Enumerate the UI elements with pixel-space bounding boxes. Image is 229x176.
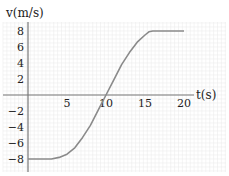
y-tick-label: 2 [17,73,24,86]
grid [3,22,226,172]
y-tick-label: 8 [17,25,24,38]
velocity-time-chart: 5101520 8642−2−4−6−8 v(m/s) t(s) [0,0,229,176]
y-axis-label: v(m/s) [5,6,44,20]
x-tick-label: 5 [64,97,71,110]
x-tick-label: 20 [177,97,191,110]
x-tick-label: 15 [138,97,152,110]
y-tick-label: −8 [8,153,24,166]
x-axis-label: t(s) [196,88,216,102]
y-tick-label: −2 [8,105,24,118]
y-tick-label: 6 [17,41,24,54]
y-tick-label: −6 [8,137,24,150]
y-tick-label: 4 [17,57,24,70]
y-tick-label: −4 [8,121,24,134]
